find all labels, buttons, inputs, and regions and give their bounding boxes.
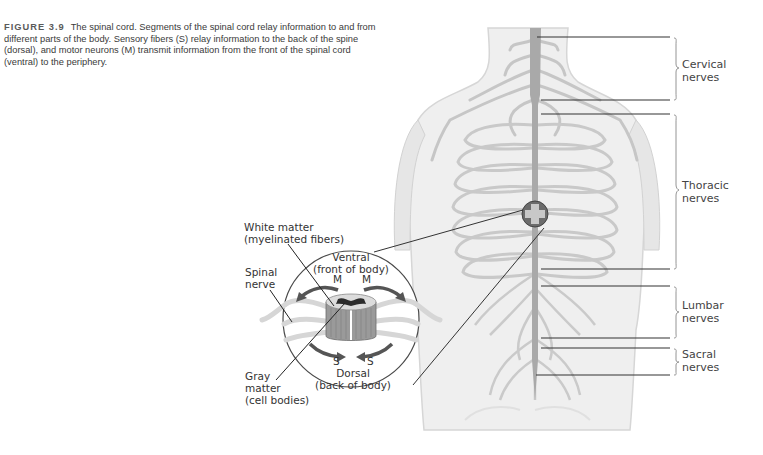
spinal-nerve-label: Spinal nerve [245,266,277,290]
gray-matter-label: Gray matter (cell bodies) [245,370,309,406]
label-line: (front of body) [303,263,399,275]
ventral-label: Ventral (front of body) [303,251,399,275]
region-brackets [674,38,679,375]
motor-right-label: M [362,273,371,285]
label-line: nerves [682,312,724,325]
sacral-nerves-label: Sacral nerves [682,348,719,374]
cervical-nerves-label: Cervical nerves [682,58,726,84]
label-line: Thoracic [682,179,729,192]
label-line: Lumbar [682,299,724,312]
label-line: Ventral [303,251,399,263]
label-line: nerves [682,361,719,374]
label-line: nerves [682,71,726,84]
cord-cross-section-marker [522,201,548,227]
label-line: (back of body) [305,379,401,391]
thoracic-nerves-label: Thoracic nerves [682,179,729,205]
lumbar-nerves-label: Lumbar nerves [682,299,724,325]
label-line: White matter [244,221,344,233]
label-line: Dorsal [305,367,401,379]
label-line: Spinal [245,266,277,278]
label-line: Sacral [682,348,719,361]
label-line: (cell bodies) [245,394,309,406]
label-line: nerves [682,192,729,205]
sensory-left-label: S [333,355,340,367]
sensory-right-label: S [367,355,374,367]
label-line: nerve [245,278,277,290]
motor-left-label: M [333,273,342,285]
dorsal-label: Dorsal (back of body) [305,367,401,391]
label-line: matter [245,382,309,394]
label-line: Cervical [682,58,726,71]
label-line: (myelinated fibers) [244,233,344,245]
white-matter-label: White matter (myelinated fibers) [244,221,344,245]
label-line: Gray [245,370,309,382]
